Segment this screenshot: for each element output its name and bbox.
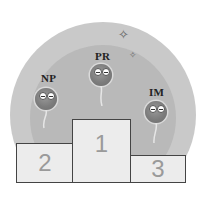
tail-icon (96, 86, 108, 106)
eye-icon (94, 68, 102, 76)
podium-third-place: 3 (130, 155, 186, 183)
eye-icon (39, 92, 47, 100)
contestant-label-pr: PR (95, 50, 110, 62)
eye-icon (47, 92, 55, 100)
place-number: 2 (17, 149, 73, 177)
eye-icon (149, 105, 157, 113)
place-number: 1 (73, 130, 130, 158)
sperm-character-np (35, 88, 57, 110)
podium-first-place: 1 (72, 119, 131, 183)
eye-icon (102, 68, 110, 76)
contestant-label-im: IM (149, 86, 164, 98)
sperm-character-im (145, 101, 167, 123)
sperm-character-pr (90, 64, 112, 86)
eye-icon (157, 105, 165, 113)
tail-icon (40, 110, 52, 130)
place-number: 3 (131, 155, 185, 183)
sparkle-icon: ✧ (129, 51, 137, 60)
podium-illustration: ✧ ✧ PR NP IM 2 3 1 (0, 0, 204, 197)
tail-icon (150, 123, 162, 143)
podium-second-place: 2 (16, 143, 74, 183)
contestant-label-np: NP (41, 72, 56, 84)
sparkle-icon: ✧ (118, 28, 129, 41)
